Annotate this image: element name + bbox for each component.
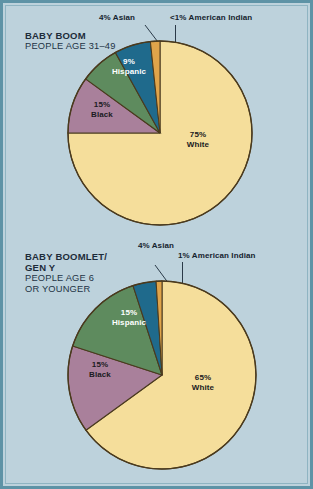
- outside-label-american-indian-chart1: <1% American Indian: [170, 13, 252, 22]
- slice-label-black-chart2: 15% Black: [75, 360, 125, 379]
- outside-label-american-indian-chart2: 1% American Indian: [178, 251, 256, 260]
- slice-label-white-chart2: 65% White: [173, 373, 233, 392]
- slice-label-hispanic-chart1: 9% Hispanic: [104, 57, 154, 76]
- slice-label-hispanic-chart2: 15% Hispanic: [102, 308, 156, 327]
- infographic-page: BABY BOOM PEOPLE AGE 31–49 4% Asian <1% …: [0, 0, 313, 489]
- outside-label-asian-chart1: 4% Asian: [99, 13, 135, 22]
- chart2-title: BABY BOOMLET/ GEN Y: [25, 251, 107, 273]
- slice-label-black-chart1: 15% Black: [78, 100, 126, 119]
- outside-label-asian-chart2: 4% Asian: [134, 241, 178, 250]
- slice-label-white-chart1: 75% White: [168, 130, 228, 149]
